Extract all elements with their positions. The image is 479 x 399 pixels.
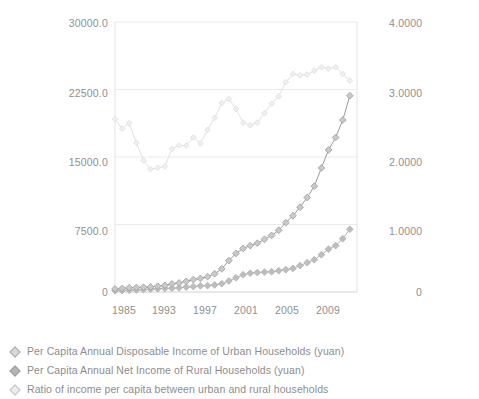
y-axis-tick-label-2: 15000.0	[28, 156, 108, 168]
marker-point-rural-income	[268, 268, 275, 275]
marker-point-rural-income	[211, 282, 218, 289]
marker-point-income-ratio	[226, 96, 232, 102]
diamond-marker-icon	[8, 345, 20, 357]
marker-point-urban-income	[318, 165, 325, 172]
marker-point-income-ratio	[304, 72, 310, 78]
marker-point-rural-income	[240, 271, 247, 278]
series-line-income-ratio	[115, 67, 350, 169]
marker-point-urban-income	[190, 276, 197, 283]
x-axis-tick-label-1: 1993	[144, 304, 184, 316]
y2-axis-tick-label-0: 4.0000	[389, 17, 469, 29]
x-axis-tick-label-2: 1997	[185, 304, 225, 316]
marker-point-income-ratio	[169, 146, 175, 152]
marker-point-rural-income	[311, 256, 318, 263]
marker-point-urban-income	[176, 280, 183, 287]
marker-point-income-ratio	[134, 140, 140, 146]
marker-point-urban-income	[240, 245, 247, 252]
x-axis-tick-label-0: 1985	[104, 304, 144, 316]
legend-item-label: Per Capita Annual Net Income of Rural Ho…	[27, 364, 304, 376]
marker-point-rural-income	[233, 274, 240, 281]
y2-axis-tick-label-1: 3.0000	[389, 87, 469, 99]
x-axis-tick-label-4: 2005	[267, 304, 307, 316]
marker-point-income-ratio	[311, 68, 317, 74]
marker-point-urban-income	[169, 281, 176, 288]
marker-point-rural-income	[204, 282, 211, 289]
marker-point-income-ratio	[155, 165, 161, 171]
marker-point-urban-income	[197, 275, 204, 282]
marker-point-urban-income	[332, 134, 339, 141]
y-axis-tick-label-1: 22500.0	[28, 87, 108, 99]
marker-point-urban-income	[325, 147, 332, 154]
marker-point-income-ratio	[212, 115, 218, 121]
marker-point-rural-income	[247, 270, 254, 277]
marker-point-urban-income	[268, 232, 275, 239]
legend-item-rural-income: Per Capita Annual Net Income of Rural Ho…	[8, 361, 479, 379]
diamond-marker-icon	[8, 383, 20, 395]
marker-point-rural-income	[261, 269, 268, 276]
marker-point-income-ratio	[240, 120, 246, 126]
chart-plot-area	[0, 0, 479, 399]
marker-point-urban-income	[247, 242, 254, 249]
x-axis-tick-label-5: 2009	[308, 304, 348, 316]
marker-point-income-ratio	[205, 127, 211, 133]
marker-point-income-ratio	[219, 100, 225, 106]
marker-point-urban-income	[183, 278, 190, 285]
legend-item-income-ratio: Ratio of income per capita between urban…	[8, 380, 479, 398]
marker-point-urban-income	[261, 236, 268, 243]
marker-point-income-ratio	[297, 72, 303, 78]
marker-point-rural-income	[190, 283, 197, 290]
chart-container: 30000.0 22500.0 15000.0 7500.0 0 4.0000 …	[0, 0, 479, 399]
y-axis-tick-label-4: 0	[28, 286, 108, 298]
marker-point-rural-income	[297, 262, 304, 269]
marker-point-rural-income	[225, 278, 232, 285]
marker-point-rural-income	[282, 266, 289, 273]
marker-point-urban-income	[346, 92, 353, 99]
marker-point-urban-income	[254, 240, 261, 247]
y2-axis-tick-label-2: 2.0000	[389, 156, 469, 168]
marker-point-urban-income	[339, 117, 346, 124]
chart-legend: Per Capita Annual Disposable Income of U…	[8, 342, 479, 399]
diamond-marker-icon	[8, 364, 20, 376]
marker-point-rural-income	[304, 259, 311, 266]
marker-point-rural-income	[218, 280, 225, 287]
marker-point-income-ratio	[176, 143, 182, 149]
marker-point-rural-income	[290, 265, 297, 272]
y-axis-tick-label-3: 7500.0	[28, 225, 108, 237]
marker-point-income-ratio	[319, 64, 325, 70]
marker-point-income-ratio	[162, 164, 168, 170]
marker-point-rural-income	[197, 282, 204, 289]
marker-point-urban-income	[211, 270, 218, 277]
marker-point-income-ratio	[233, 106, 239, 112]
legend-item-urban-income: Per Capita Annual Disposable Income of U…	[8, 342, 479, 360]
marker-point-rural-income	[254, 269, 261, 276]
y-axis-tick-label-0: 30000.0	[28, 17, 108, 29]
marker-point-urban-income	[204, 273, 211, 280]
marker-point-income-ratio	[247, 122, 253, 128]
y2-axis-tick-label-3: 1.0000	[389, 225, 469, 237]
marker-point-urban-income	[311, 183, 318, 190]
y2-axis-tick-label-4: 0	[416, 286, 456, 298]
x-axis-tick-label-3: 2001	[226, 304, 266, 316]
legend-item-label: Per Capita Annual Disposable Income of U…	[27, 345, 344, 357]
legend-item-label: Ratio of income per capita between urban…	[27, 383, 328, 395]
marker-point-rural-income	[275, 267, 282, 274]
marker-point-income-ratio	[326, 66, 332, 72]
